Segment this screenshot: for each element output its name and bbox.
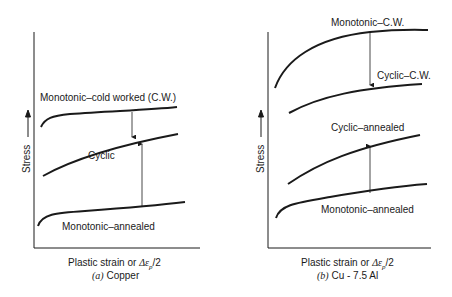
caption-a-text: Copper bbox=[104, 270, 140, 281]
caption-a-letter: (a) bbox=[92, 270, 104, 281]
curve-b-cyclic-cw bbox=[289, 84, 422, 113]
x-axis-label-b: Plastic strain or Δεp/2 bbox=[301, 257, 394, 271]
caption-a: (a) Copper bbox=[92, 270, 139, 281]
panel-b-axes bbox=[259, 32, 432, 248]
label-b-cyclic-annealed: Cyclic–annealed bbox=[331, 122, 404, 133]
label-b-cyclic-cw: Cyclic–C.W. bbox=[377, 70, 431, 81]
x-axis-label-a-symbol: Δε bbox=[139, 257, 149, 268]
y-axis-label-b: Stress bbox=[255, 145, 266, 173]
x-axis-label-b-text: Plastic strain or bbox=[301, 257, 372, 268]
label-a-monotonic-annealed: Monotonic–annealed bbox=[62, 221, 155, 232]
curve-a-monotonic-cw bbox=[41, 107, 177, 127]
x-axis-label-b-symbol: Δε bbox=[372, 257, 382, 268]
label-b-monotonic-cw: Monotonic–C.W. bbox=[331, 17, 404, 28]
label-a-cyclic: Cyclic bbox=[88, 150, 115, 161]
label-a-monotonic-cw: Monotonic–cold worked (C.W.) bbox=[40, 92, 176, 103]
caption-b-text: Cu - 7.5 Al bbox=[329, 270, 378, 281]
caption-b-letter: (b) bbox=[317, 270, 329, 281]
x-axis-label-b-suffix: /2 bbox=[385, 257, 393, 268]
x-axis-label-a-text: Plastic strain or bbox=[68, 257, 139, 268]
y-axis-label-a: Stress bbox=[21, 145, 32, 173]
x-axis-label-a: Plastic strain or Δεp/2 bbox=[68, 257, 161, 271]
x-axis-label-a-suffix: /2 bbox=[152, 257, 160, 268]
label-b-monotonic-annealed: Monotonic–annealed bbox=[321, 204, 414, 215]
caption-b: (b) Cu - 7.5 Al bbox=[317, 270, 378, 281]
diagram-canvas bbox=[0, 0, 452, 297]
curve-b-cyclic-annealed bbox=[288, 135, 420, 184]
